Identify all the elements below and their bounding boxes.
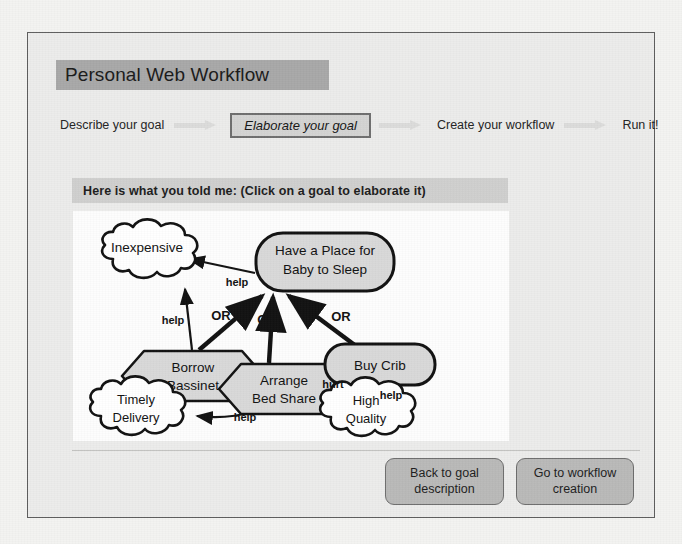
back-button-label-line1: Back to goal (410, 466, 479, 480)
goal-node-timely-delivery[interactable]: Timely Delivery (90, 376, 185, 434)
goal-node-quality-label-line1: High (353, 393, 380, 408)
step-create-your-workflow[interactable]: Create your workflow (435, 116, 556, 134)
step-elaborate-your-goal[interactable]: Elaborate your goal (230, 113, 371, 138)
edge-label-borrow-inexpensive: help (162, 314, 185, 326)
goal-node-root-label-line1: Have a Place for (275, 243, 375, 258)
goal-node-inexpensive[interactable]: Inexpensive (102, 219, 197, 277)
goal-node-borrow-label-line1: Borrow (172, 360, 215, 375)
step-describe-your-goal[interactable]: Describe your goal (58, 116, 166, 134)
arrow-right-icon (174, 120, 222, 131)
edge-label-root-inexpensive: help (226, 276, 249, 288)
page-title-bar: Personal Web Workflow (56, 60, 329, 90)
edge-label-bedshare-root: OR (257, 312, 277, 327)
edge-label-bedshare-timely: help (234, 411, 257, 423)
goal-node-root[interactable]: Have a Place for Baby to Sleep (256, 233, 394, 291)
edge-label-borrow-root: OR (211, 308, 231, 323)
goal-node-borrow-label-line2: Bassinet (167, 378, 219, 393)
back-button-label-line2: description (414, 482, 474, 496)
goal-node-root-label-line2: Baby to Sleep (283, 262, 367, 277)
step-run-it[interactable]: Run it! (620, 116, 660, 134)
go-to-workflow-creation-button[interactable]: Go to workflow creation (516, 458, 634, 505)
goal-graph-canvas[interactable]: Inexpensive Have a Place for Baby to Sle… (73, 211, 509, 441)
edge-borrow-to-inexpensive (185, 289, 192, 350)
instruction-text: Here is what you told me: (Click on a go… (72, 184, 426, 198)
edge-label-buycrib-quality: help (380, 389, 403, 401)
arrow-right-icon (564, 120, 612, 131)
edge-bedshare-to-root (269, 297, 273, 363)
edge-label-bedshare-quality: hurt (322, 378, 344, 390)
goal-node-quality-label-line2: Quality (346, 411, 387, 426)
back-to-goal-description-button[interactable]: Back to goal description (385, 458, 504, 505)
edge-label-buycrib-root: OR (331, 309, 351, 324)
edge-root-to-inexpensive (189, 259, 255, 273)
goal-node-buycrib-label: Buy Crib (354, 358, 406, 373)
goal-node-inexpensive-label: Inexpensive (111, 240, 183, 255)
workflow-stepper: Describe your goal Elaborate your goal C… (58, 112, 638, 138)
instruction-bar: Here is what you told me: (Click on a go… (72, 178, 508, 203)
goal-node-timely-label-line2: Delivery (113, 410, 160, 425)
arrow-right-icon (379, 120, 427, 131)
go-button-label-line2: creation (553, 482, 597, 496)
edge-borrow-to-root (199, 296, 262, 350)
page-title: Personal Web Workflow (56, 64, 269, 86)
main-panel: Personal Web Workflow Describe your goal… (27, 32, 655, 518)
goal-node-timely-label-line1: Timely (117, 392, 155, 407)
goal-node-bedshare-label-line1: Arrange (260, 373, 308, 388)
footer-divider (72, 450, 640, 451)
goal-node-bedshare-label-line2: Bed Share (252, 391, 316, 406)
go-button-label-line1: Go to workflow (534, 466, 617, 480)
